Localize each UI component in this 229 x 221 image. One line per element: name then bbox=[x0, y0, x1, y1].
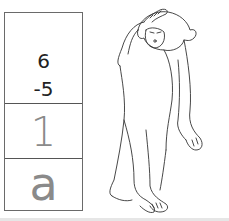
code-letter: a bbox=[5, 159, 82, 209]
monkey-scratching-head-icon bbox=[100, 0, 229, 221]
subtrahend: -5 bbox=[5, 79, 82, 99]
letter-section: a bbox=[5, 158, 82, 211]
minuend: 6 bbox=[5, 51, 82, 71]
subtraction-card: 6 -5 1 a bbox=[4, 12, 83, 211]
answer-value: 1 bbox=[5, 110, 82, 154]
problem-section: 6 -5 bbox=[5, 13, 82, 103]
page-edge-shadow bbox=[0, 218, 229, 221]
answer-section: 1 bbox=[5, 103, 82, 159]
